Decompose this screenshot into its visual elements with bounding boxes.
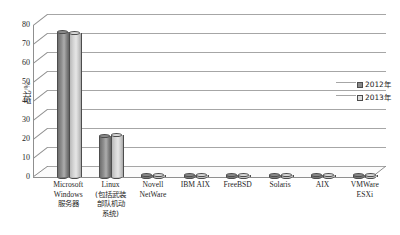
legend-swatch-icon (357, 82, 363, 88)
cylinder-cap (196, 173, 207, 177)
bar-chart: 占比/% 01020304050607080 MicrosoftWindows服… (0, 0, 400, 235)
bar-2012[interactable] (184, 175, 195, 178)
axis-tick-connector (33, 52, 48, 64)
bar-2013[interactable] (111, 135, 122, 177)
cylinder-cap (69, 31, 80, 35)
y-axis-tick-label: 20 (12, 135, 30, 143)
cylinder-cap (141, 173, 152, 177)
bar-2013[interactable] (69, 33, 80, 177)
legend-label: 2013年 (365, 91, 391, 104)
cylinder-cap (353, 173, 364, 177)
bar-2013[interactable] (238, 175, 249, 178)
cylinder-cap (184, 173, 195, 177)
axis-tick-connector (33, 147, 48, 159)
bar-2013[interactable] (153, 175, 164, 178)
legend-item-2013[interactable]: 2013年 (357, 91, 391, 104)
gridline (47, 14, 386, 15)
chart-legend: 2012年 2013年 (357, 78, 391, 104)
gridline (47, 71, 386, 72)
y-axis-tick-label: 40 (12, 97, 30, 105)
gridline (47, 109, 386, 110)
gridline (47, 128, 386, 129)
bar-2013[interactable] (196, 175, 207, 178)
axis-tick-connector (33, 14, 48, 26)
bar-2013[interactable] (323, 175, 334, 178)
cylinder-cap (311, 173, 322, 177)
gridline (47, 33, 386, 34)
bar-2012[interactable] (353, 175, 364, 178)
x-axis-label-line: VMWare (338, 180, 392, 190)
cylinder-cap (153, 173, 164, 177)
y-axis-tick-label: 60 (12, 59, 30, 67)
gridline (47, 90, 386, 91)
axis-tick-connector (33, 90, 48, 102)
y-axis-tick-label: 0 (12, 173, 30, 181)
y-axis-tick-label: 10 (12, 154, 30, 162)
bar-2012[interactable] (57, 32, 68, 177)
gridline (47, 147, 386, 148)
bar-2013[interactable] (365, 175, 376, 178)
bar-2012[interactable] (99, 136, 110, 177)
cylinder-cap (281, 173, 292, 177)
cylinder-cap (269, 173, 280, 177)
bar-2012[interactable] (141, 175, 152, 178)
bar-2012[interactable] (269, 175, 280, 178)
legend-swatch-icon (357, 95, 363, 101)
bar-2012[interactable] (311, 175, 322, 178)
legend-leader-line (336, 95, 356, 96)
y-axis-tick-label: 80 (12, 21, 30, 29)
y-axis-tick-label: 30 (12, 116, 30, 124)
axis-tick-connector (33, 33, 48, 45)
cylinder-body (69, 33, 82, 177)
cylinder-cap (365, 173, 376, 177)
cylinder-cap (57, 30, 68, 34)
bar-2012[interactable] (226, 175, 237, 178)
legend-item-2012[interactable]: 2012年 (357, 78, 391, 91)
axis-tick-connector (33, 109, 48, 121)
x-axis-label: VMWareESXi (338, 180, 392, 199)
y-axis-tick-label: 50 (12, 78, 30, 86)
gridline (47, 52, 386, 53)
y-axis-line (33, 25, 34, 177)
legend-leader-line (336, 82, 356, 83)
legend-label: 2012年 (365, 78, 391, 91)
axis-tick-connector (33, 71, 48, 83)
chart-floor-back-edge (47, 166, 386, 167)
cylinder-cap (238, 173, 249, 177)
x-axis-label-line: ESXi (338, 190, 392, 200)
cylinder-body (111, 135, 124, 177)
cylinder-cap (226, 173, 237, 177)
x-axis-label-line: 部队机动 (83, 199, 137, 209)
bar-2013[interactable] (281, 175, 292, 178)
chart-floor-left-edge (33, 166, 48, 178)
axis-tick-connector (33, 128, 48, 140)
x-axis-label-line: NetWare (126, 190, 180, 200)
x-axis-label-line: 系统) (83, 209, 137, 219)
cylinder-cap (323, 173, 334, 177)
y-axis-tick-label: 70 (12, 40, 30, 48)
